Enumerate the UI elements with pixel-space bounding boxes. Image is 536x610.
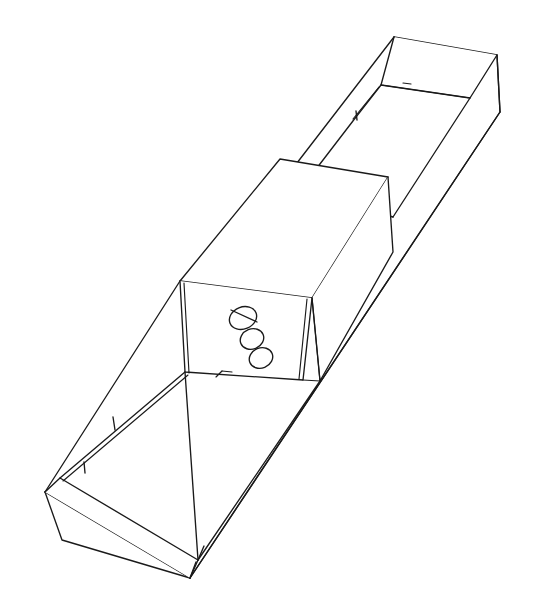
drawing-canvas: Open-top rectangular tray with inserted …	[0, 0, 536, 610]
isometric-line-drawing	[0, 0, 536, 610]
